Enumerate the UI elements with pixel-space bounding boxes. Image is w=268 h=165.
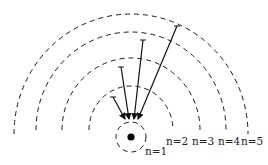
orbit-n2 — [89, 86, 173, 130]
orbit-n3 — [62, 58, 200, 130]
level-label-n5: n=5 — [241, 135, 263, 147]
bohr-model-diagram: n=1 n=2 n=3 n=4 n=5 — [0, 0, 268, 165]
level-label-n3: n=3 — [192, 135, 214, 147]
transition-arrow-n2-to-n1 — [113, 97, 125, 119]
transition-arrow-n3-to-n1 — [121, 67, 129, 119]
orbit-n5 — [14, 14, 248, 134]
transition-arrow-n4-to-n1 — [134, 40, 143, 119]
nucleus-dot — [127, 133, 134, 140]
orbit-n4 — [36, 32, 226, 130]
level-label-n1: n=1 — [145, 145, 167, 157]
level-label-n2: n=2 — [166, 135, 188, 147]
level-label-n4: n=4 — [218, 135, 241, 147]
